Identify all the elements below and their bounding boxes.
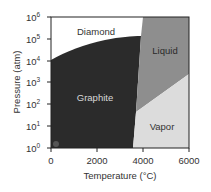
svg-text:106: 106 [26,11,41,23]
svg-text:0: 0 [48,155,53,166]
y-tick-labels: 106 105 104 103 102 101 100 [26,11,41,154]
svg-text:105: 105 [26,33,41,45]
x-axis-title: Temperature (°C) [84,170,157,181]
vapor-label: Vapor [150,121,175,132]
x-ticks [51,148,189,152]
graphite-label: Graphite [77,92,113,103]
svg-text:6000: 6000 [178,155,199,166]
x-tick-labels: 0 2000 4000 6000 [48,155,199,166]
svg-text:4000: 4000 [132,155,153,166]
svg-text:103: 103 [26,76,41,88]
diamond-label: Diamond [77,26,115,37]
liquid-label: Liquid [152,45,177,56]
svg-text:104: 104 [26,55,41,67]
marker-dot [53,141,59,147]
y-ticks [47,17,51,148]
svg-text:100: 100 [26,142,41,154]
svg-text:2000: 2000 [86,155,107,166]
phase-diagram: 106 105 104 103 102 101 100 0 2000 4000 … [0,0,211,192]
y-axis-title: Pressure (atm) [11,51,22,114]
svg-text:101: 101 [26,120,41,132]
svg-text:102: 102 [26,98,41,110]
